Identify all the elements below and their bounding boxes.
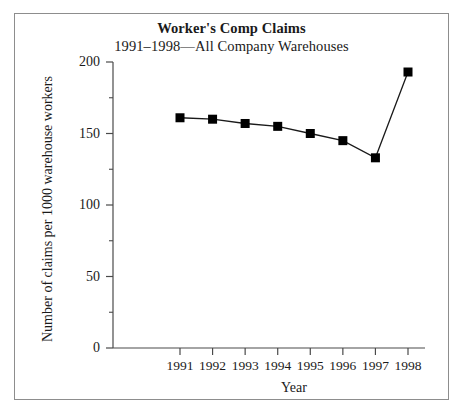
x-axis-title: Year: [281, 380, 307, 396]
data-point-marker: [176, 113, 185, 122]
data-point-marker: [208, 115, 217, 124]
x-tick-label: 1991: [167, 358, 194, 374]
y-tick-label: 200: [55, 54, 100, 70]
x-tick-label: 1994: [264, 358, 291, 374]
chart-figure: Worker's Comp Claims 1991–1998—All Compa…: [0, 0, 464, 415]
y-tick-label: 0: [55, 340, 100, 356]
y-tick-label: 50: [55, 269, 100, 285]
x-tick-label: 1995: [297, 358, 324, 374]
y-tick-label: 150: [55, 126, 100, 142]
data-point-marker: [306, 129, 315, 138]
y-axis-title: Number of claims per 1000 warehouse work…: [40, 76, 56, 342]
data-point-marker: [241, 119, 250, 128]
x-tick-label: 1996: [329, 358, 356, 374]
data-point-marker: [338, 136, 347, 145]
data-series-group: [176, 68, 413, 163]
y-tick-label: 100: [55, 197, 100, 213]
plot-area: 050100150200 199119921993199419951996199…: [0, 0, 464, 415]
data-point-marker: [273, 122, 282, 131]
x-tick-label: 1998: [395, 358, 422, 374]
axes-group: [106, 62, 425, 355]
x-tick-label: 1993: [232, 358, 259, 374]
data-point-marker: [404, 68, 413, 77]
x-tick-label: 1992: [199, 358, 226, 374]
data-point-marker: [371, 153, 380, 162]
x-tick-label: 1997: [362, 358, 389, 374]
